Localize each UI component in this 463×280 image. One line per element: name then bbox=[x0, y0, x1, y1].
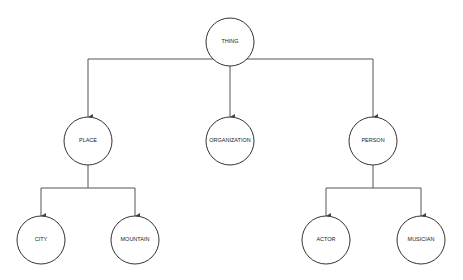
node-thing[interactable]: THING bbox=[206, 18, 254, 66]
node-person[interactable]: PERSON bbox=[349, 117, 397, 165]
node-city[interactable]: CITY bbox=[17, 216, 65, 264]
node-mountain[interactable]: MOUNTAIN bbox=[111, 216, 159, 264]
node-mountain-label: MOUNTAIN bbox=[121, 236, 150, 242]
edges-thing-children bbox=[88, 59, 373, 117]
node-musician[interactable]: MUSICIAN bbox=[397, 216, 445, 264]
node-organization[interactable]: ORGANIZATION bbox=[206, 117, 254, 165]
edges-place-children bbox=[41, 165, 135, 216]
node-actor-label: ACTOR bbox=[316, 236, 335, 242]
node-city-label: CITY bbox=[35, 236, 48, 242]
node-place-label: PLACE bbox=[79, 137, 97, 143]
node-musician-label: MUSICIAN bbox=[408, 236, 435, 242]
node-organization-label: ORGANIZATION bbox=[209, 137, 250, 143]
edges-person-children bbox=[326, 165, 421, 216]
node-actor[interactable]: ACTOR bbox=[302, 216, 350, 264]
node-place[interactable]: PLACE bbox=[64, 117, 112, 165]
node-thing-label: THING bbox=[221, 38, 238, 44]
tree-diagram: THING PLACE ORGANIZATION PERSON CITY MOU… bbox=[0, 0, 463, 280]
node-person-label: PERSON bbox=[361, 137, 384, 143]
